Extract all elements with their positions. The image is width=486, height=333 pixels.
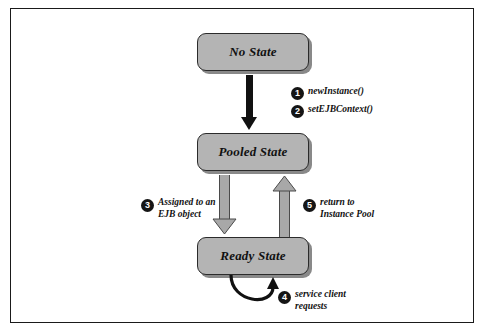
diagram-canvas: No State Pooled State Ready State 1 [0, 0, 486, 333]
transition-label-set-ejb-context: setEJBContext() [308, 104, 373, 116]
arrow-ready-to-pooled-head-icon [272, 175, 297, 192]
arrow-ready-to-pooled-shaft [279, 191, 290, 237]
arrow-no-state-to-pooled-head-icon [241, 117, 257, 130]
state-box-ready-state[interactable]: Ready State [197, 237, 309, 275]
state-label-pooled-state: Pooled State [218, 144, 287, 160]
transition-bullet-5: 5 [303, 199, 316, 212]
transition-bullet-3: 3 [141, 199, 154, 212]
arrow-no-state-to-pooled-shaft [246, 75, 253, 119]
transition-label-assigned-to-ejb-object: Assigned to an EJB object [158, 197, 224, 220]
arrow-pooled-to-ready-head-icon [212, 218, 237, 235]
transition-label-new-instance: newInstance() [308, 86, 364, 98]
state-box-pooled-state[interactable]: Pooled State [197, 133, 309, 171]
transition-bullet-1: 1 [291, 87, 304, 100]
state-box-no-state[interactable]: No State [197, 33, 309, 71]
arrow-ready-self-loop-icon [223, 273, 283, 317]
state-label-no-state: No State [229, 44, 276, 60]
transition-label-return-to-instance-pool: return to Instance Pool [320, 197, 392, 220]
state-label-ready-state: Ready State [220, 248, 285, 264]
transition-bullet-2: 2 [291, 105, 304, 118]
diagram-frame: No State Pooled State Ready State 1 [10, 8, 474, 323]
transition-label-service-client-requests: service client requests [295, 289, 361, 312]
transition-bullet-4: 4 [278, 291, 291, 304]
